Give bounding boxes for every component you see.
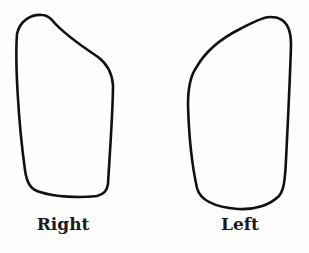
right-outline-shape bbox=[16, 15, 113, 197]
right-label: Right bbox=[37, 214, 90, 234]
diagram-canvas: Right Left bbox=[0, 0, 309, 253]
left-label: Left bbox=[221, 214, 259, 234]
left-outline-shape bbox=[188, 17, 291, 209]
